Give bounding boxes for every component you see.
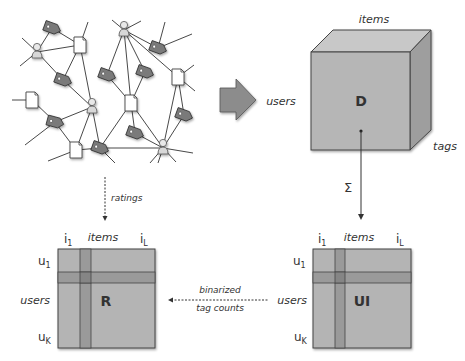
matrix-r-label: R (101, 293, 112, 309)
tag-node-icon (175, 108, 194, 123)
user-node-icon (119, 21, 129, 36)
tag-node-icon (149, 41, 168, 56)
cube-axis-users: users (266, 95, 296, 108)
matrix-ui-column-band (335, 249, 345, 348)
tensor-cube (311, 30, 431, 150)
binarized-arrow-head-icon (168, 298, 173, 303)
binarized-label: binarized (199, 285, 241, 295)
matrix-ui-cross (335, 272, 345, 283)
right-arrow-icon (220, 79, 256, 120)
tagging-network (12, 20, 195, 163)
matrix-ui-row-band (313, 272, 411, 283)
matrix-ui-row-first: u1 (293, 254, 306, 270)
document-node-icon (172, 69, 184, 85)
matrix-r-col-last: iL (140, 232, 148, 248)
user-node-icon (32, 43, 42, 58)
tag-node-icon (54, 73, 73, 88)
matrix-r-column-band (80, 249, 91, 348)
tag-node-icon (136, 65, 155, 80)
tag-node-icon (126, 126, 145, 141)
document-node-icon (74, 37, 86, 53)
ratings-label: ratings (111, 193, 143, 203)
matrix-r-row-band (58, 272, 155, 283)
matrix-ui-col-last: iL (396, 232, 404, 248)
user-node-icon (87, 98, 97, 113)
matrix-ui-row-label: users (277, 294, 307, 307)
matrix-ui-label: UI (354, 293, 371, 309)
matrix-ui-col-first: i1 (318, 232, 326, 248)
document-node-icon (70, 142, 82, 158)
diagram-canvas: D items users tags Σ ratings binarized t… (0, 0, 465, 361)
user-node-icon (158, 139, 168, 154)
matrix-r-row-last: uK (38, 330, 52, 346)
tag-node-icon (98, 68, 117, 83)
matrix-r-col-label: items (88, 231, 119, 244)
matrix-ui-row-last: uK (294, 330, 308, 346)
document-node-icon (26, 92, 38, 108)
ratings-arrow-head-icon (103, 216, 108, 221)
cube-label: D (355, 93, 367, 109)
cube-axis-items: items (359, 13, 390, 26)
sum-symbol: Σ (344, 180, 352, 195)
network-nodes (26, 21, 194, 158)
tag-counts-label: tag counts (196, 303, 244, 313)
matrix-r-cross (80, 272, 91, 283)
sum-arrow-head-icon (358, 214, 364, 220)
document-node-icon (125, 95, 137, 111)
matrix-r-row-first: u1 (38, 254, 51, 270)
tag-node-icon (91, 141, 110, 156)
tag-node-icon (43, 21, 62, 36)
matrix-r-row-label: users (20, 294, 50, 307)
cube-axis-tags: tags (433, 140, 457, 153)
matrix-ui-col-label: items (344, 231, 375, 244)
matrix-r-col-first: i1 (64, 232, 72, 248)
